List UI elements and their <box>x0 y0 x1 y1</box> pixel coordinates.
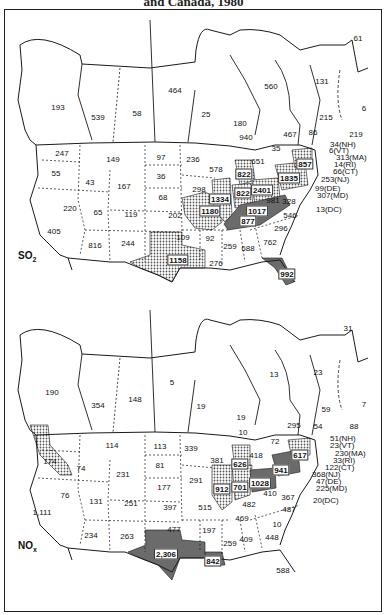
so2-callout-label: 13(DC) <box>316 205 342 214</box>
nox-state-value: 2,306 <box>154 549 178 560</box>
so2-callout-label: 253(NJ) <box>321 175 349 184</box>
so2-state-value: 35 <box>272 144 281 153</box>
so2-state-value: 65 <box>94 208 103 217</box>
nox-province-value: 295 <box>287 421 300 430</box>
nox-province-value: 31 <box>344 324 353 333</box>
so2-state-value: 1180 <box>199 206 220 217</box>
so2-province-value: 180 <box>233 119 246 128</box>
nox-province-value: 54 <box>314 422 323 431</box>
so2-province-value: 6 <box>362 104 366 113</box>
nox-state-value: 397 <box>163 503 176 512</box>
so2-state-value: 822 <box>235 169 252 180</box>
so2-state-value: 877 <box>239 216 256 227</box>
nox-state-value: 367 <box>281 493 294 502</box>
nox-state-value: 81 <box>156 461 165 470</box>
nox-province-value: 148 <box>128 395 141 404</box>
nox-province-value: 190 <box>45 388 58 397</box>
so2-state-value: 119 <box>125 210 138 219</box>
so2-state-value: 651 <box>251 157 264 166</box>
nox-state-value: 381 <box>210 456 223 465</box>
so2-province-value: 61 <box>354 34 363 43</box>
nox-state-value: 482 <box>242 500 255 509</box>
so2-state-value: 68 <box>159 193 168 202</box>
nox-state-value: 259 <box>223 539 236 548</box>
so2-state-value: 247 <box>55 149 68 158</box>
nox-state-value: 74 <box>77 464 86 473</box>
so2-province-value: 940 <box>239 133 252 142</box>
so2-province-value: 215 <box>319 113 332 122</box>
nox-state-value: 1028 <box>249 478 271 489</box>
so2-state-value: 220 <box>63 204 76 213</box>
nox-state-value: 617 <box>291 450 308 461</box>
so2-state-value: 236 <box>186 155 199 164</box>
nox-province-value: 7 <box>362 400 366 409</box>
nox-province-value: 88 <box>350 422 359 431</box>
so2-state-value: 762 <box>263 238 276 247</box>
nox-callout-label: 20(DC) <box>313 496 339 505</box>
so2-province-value: 464 <box>168 86 181 95</box>
nox-state-value: 941 <box>272 465 289 476</box>
so2-province-value: 467 <box>283 130 296 139</box>
so2-state-value: 149 <box>106 155 119 164</box>
nox-state-value: 114 <box>106 441 119 450</box>
so2-province-value: 219 <box>349 130 362 139</box>
so2-state-value: 822 <box>234 188 251 199</box>
so2-callout-label: 307(MD) <box>317 191 348 200</box>
so2-state-value: 97 <box>157 153 166 162</box>
so2-state-value: 328 <box>282 197 295 206</box>
so2-state-value: 36 <box>157 172 166 181</box>
nox-state-value: 234 <box>84 531 97 540</box>
so2-state-value: 1158 <box>167 255 188 266</box>
so2-state-value: 1835 <box>278 173 300 184</box>
so2-label-main: SO <box>18 250 32 261</box>
nox-province-value: 354 <box>91 401 104 410</box>
so2-state-value: 546 <box>283 211 296 220</box>
nox-province-value: 59 <box>322 405 331 414</box>
nox-state-value: 701 <box>231 482 248 493</box>
nox-state-value: 291 <box>189 476 202 485</box>
nox-state-value: 588 <box>276 566 289 575</box>
nox-state-value: 842 <box>204 556 221 567</box>
so2-state-value: 1334 <box>209 194 231 205</box>
so2-state-value: 92 <box>206 234 215 243</box>
so2-province-value: 25 <box>202 110 211 119</box>
so2-state-value: 296 <box>274 224 287 233</box>
nox-state-value: 251 <box>124 499 137 508</box>
so2-state-value: 816 <box>88 241 101 250</box>
nox-province-value: 13 <box>270 370 279 379</box>
so2-panel-label: SO2 <box>18 250 36 263</box>
nox-state-value: 409 <box>239 535 252 544</box>
nox-province-value: 19 <box>237 413 246 422</box>
nox-province-value: 10 <box>239 428 248 437</box>
so2-state-value: 202 <box>168 211 181 220</box>
so2-province-value: 131 <box>315 77 328 86</box>
nox-state-value: 76 <box>61 491 70 500</box>
nox-state-value: 515 <box>198 503 211 512</box>
so2-state-value: 405 <box>47 227 60 236</box>
nox-state-value: 339 <box>184 444 197 453</box>
nox-province-value: 5 <box>170 378 174 387</box>
nox-state-value: 72 <box>271 437 280 446</box>
nox-label-sub: x <box>33 546 37 553</box>
nox-state-value: 113 <box>154 442 167 451</box>
so2-state-value: 276 <box>209 259 222 268</box>
so2-state-value: 298 <box>192 185 205 194</box>
so2-state-value: 688 <box>241 244 254 253</box>
map-outlines <box>0 0 387 615</box>
so2-state-value: 109 <box>176 233 189 242</box>
so2-province-value: 560 <box>264 82 277 91</box>
so2-state-value: 55 <box>52 169 61 178</box>
nox-state-value: 626 <box>231 459 248 470</box>
so2-map <box>18 20 368 285</box>
so2-state-value: 244 <box>121 239 134 248</box>
nox-province-value: 23 <box>314 368 323 377</box>
nox-state-value: 469 <box>235 514 248 523</box>
nox-state-value: 10 <box>273 520 282 529</box>
nox-state-value: 418 <box>249 451 262 460</box>
so2-state-value: 992 <box>278 269 295 280</box>
nox-state-value: 477 <box>167 525 180 534</box>
nox-state-value: 231 <box>116 470 129 479</box>
nox-state-value: 912 <box>213 484 230 495</box>
nox-state-value: 177 <box>157 483 170 492</box>
nox-label-main: NO <box>18 540 33 551</box>
